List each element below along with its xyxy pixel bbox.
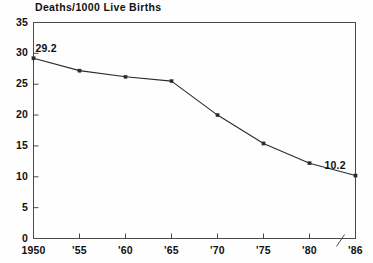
data-point-markers	[32, 57, 357, 177]
x-axis-tick-label: '80	[287, 244, 333, 256]
x-axis-tick-label: '65	[149, 244, 195, 256]
x-axis-tick-label: '70	[195, 244, 241, 256]
data-line-series	[34, 58, 356, 175]
x-axis-tick-label: 1950	[11, 244, 57, 256]
x-axis-tick-label: '86	[333, 244, 373, 256]
x-axis-tick-label: '55	[57, 244, 103, 256]
y-axis-tick-label: 0	[2, 232, 28, 244]
x-axis-ticks	[80, 234, 356, 239]
x-axis-tick-label: '60	[103, 244, 149, 256]
axis-frame	[34, 23, 356, 239]
data-point-value-label: 10.2	[325, 159, 346, 171]
data-point-value-label: 29.2	[36, 42, 57, 54]
chart-container: Deaths/1000 Live Births 05101520253035 1…	[0, 0, 373, 263]
y-axis-ticks	[34, 23, 39, 239]
y-axis-tick-label: 5	[2, 201, 28, 213]
y-axis-tick-label: 15	[2, 139, 28, 151]
y-axis-tick-label: 30	[2, 46, 28, 58]
y-axis-tick-label: 25	[2, 77, 28, 89]
y-axis-tick-label: 20	[2, 108, 28, 120]
plot-area	[0, 0, 373, 263]
y-axis-tick-label: 35	[2, 16, 28, 28]
y-axis-tick-label: 10	[2, 170, 28, 182]
x-axis-tick-label: '75	[241, 244, 287, 256]
